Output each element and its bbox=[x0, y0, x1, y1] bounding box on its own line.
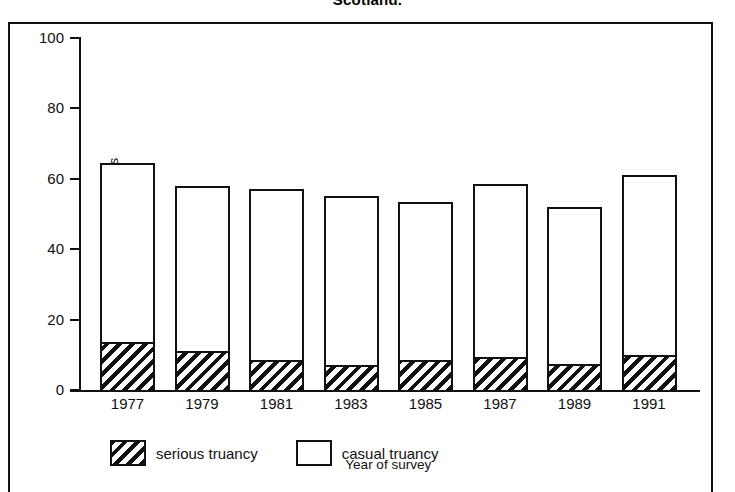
bar-segment-serious-truancy bbox=[473, 357, 528, 390]
x-tick-label: 1981 bbox=[237, 396, 317, 411]
bar-segment-serious-truancy bbox=[100, 342, 155, 390]
y-tick-label: 60 bbox=[16, 171, 64, 186]
bar-segment-casual-truancy bbox=[473, 184, 528, 356]
bar-group bbox=[324, 196, 379, 390]
bar-segment-casual-truancy bbox=[324, 196, 379, 365]
y-tick-mark bbox=[70, 37, 81, 39]
bar-segment-serious-truancy bbox=[175, 351, 230, 390]
bar-group bbox=[473, 184, 528, 390]
bar-segment-casual-truancy bbox=[100, 163, 155, 343]
bar-group bbox=[249, 189, 304, 390]
x-tick-label: 1983 bbox=[311, 396, 391, 411]
x-tick-label: 1977 bbox=[88, 396, 168, 411]
bar-group bbox=[100, 163, 155, 390]
plot-area: Percentage of leavers Year of survey bbox=[79, 38, 699, 390]
y-tick-label: 0 bbox=[16, 382, 64, 397]
y-tick-label: 20 bbox=[16, 312, 64, 327]
bar-segment-serious-truancy bbox=[324, 365, 379, 390]
legend-entry-casual-truancy: casual truancy bbox=[296, 440, 439, 466]
y-tick-label: 80 bbox=[16, 100, 64, 115]
y-tick-mark bbox=[70, 107, 81, 109]
x-axis-line bbox=[70, 390, 700, 392]
y-tick-label: 40 bbox=[16, 241, 64, 256]
y-tick-mark bbox=[70, 248, 81, 250]
legend-label-serious-truancy: serious truancy bbox=[156, 445, 258, 462]
legend-swatch-white-icon bbox=[296, 440, 332, 466]
y-tick-label: 100 bbox=[16, 30, 64, 45]
bar-segment-serious-truancy bbox=[547, 364, 602, 390]
bar-group bbox=[398, 202, 453, 390]
bar-segment-casual-truancy bbox=[398, 202, 453, 360]
x-tick-label: 1985 bbox=[386, 396, 466, 411]
bar-segment-serious-truancy bbox=[622, 355, 677, 390]
bar-segment-casual-truancy bbox=[175, 186, 230, 351]
chart-legend: serious truancy casual truancy bbox=[110, 440, 438, 466]
y-tick-mark bbox=[70, 178, 81, 180]
y-tick-mark bbox=[70, 389, 81, 391]
x-tick-label: 1991 bbox=[609, 396, 689, 411]
bar-segment-casual-truancy bbox=[547, 207, 602, 364]
bar-segment-serious-truancy bbox=[398, 360, 453, 390]
bar-group bbox=[622, 175, 677, 390]
figure-title: Scotland. bbox=[0, 0, 735, 8]
y-tick-mark bbox=[70, 319, 81, 321]
bar-group bbox=[547, 207, 602, 390]
bar-segment-serious-truancy bbox=[249, 360, 304, 390]
legend-label-casual-truancy: casual truancy bbox=[342, 445, 439, 462]
legend-swatch-hatched-icon bbox=[110, 440, 146, 466]
x-tick-label: 1989 bbox=[535, 396, 615, 411]
bar-segment-casual-truancy bbox=[249, 189, 304, 360]
x-tick-label: 1979 bbox=[162, 396, 242, 411]
bar-segment-casual-truancy bbox=[622, 175, 677, 355]
legend-entry-serious-truancy: serious truancy bbox=[110, 440, 258, 466]
x-tick-label: 1987 bbox=[460, 396, 540, 411]
bar-group bbox=[175, 186, 230, 390]
